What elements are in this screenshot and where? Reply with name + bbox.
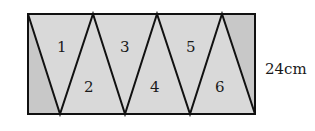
triangle-label-6: 6	[215, 80, 225, 95]
triangle-label-3: 3	[120, 40, 130, 55]
triangle-label-1: 1	[57, 40, 67, 55]
height-dimension-label: 24cm	[265, 62, 307, 77]
triangle-label-5: 5	[186, 40, 196, 55]
triangle-label-2: 2	[84, 80, 94, 95]
triangle-label-4: 4	[150, 80, 160, 95]
